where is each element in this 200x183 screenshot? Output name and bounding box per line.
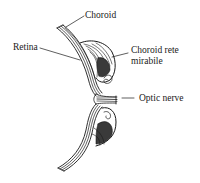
label-choroid: Choroid [85, 10, 116, 20]
label-choroid-rete-line1: Choroid rete [131, 45, 179, 55]
label-optic-nerve: Optic nerve [139, 93, 184, 103]
leader-rete [112, 53, 128, 57]
leader-choroid [66, 16, 84, 27]
upper-wall-layers [57, 25, 102, 96]
lower-wall-layers [58, 104, 102, 171]
upper-rete-mass [80, 41, 115, 84]
optic-nerve-bands [94, 94, 117, 104]
eye-wall-drawing [0, 0, 200, 183]
label-retina: Retina [13, 42, 38, 52]
diagram-figure: Choroid Retina Choroid rete mirabile Opt… [0, 0, 200, 183]
lower-rete-mass [92, 108, 116, 146]
leader-retina [40, 48, 80, 60]
label-choroid-rete-line2: mirabile [131, 56, 163, 66]
